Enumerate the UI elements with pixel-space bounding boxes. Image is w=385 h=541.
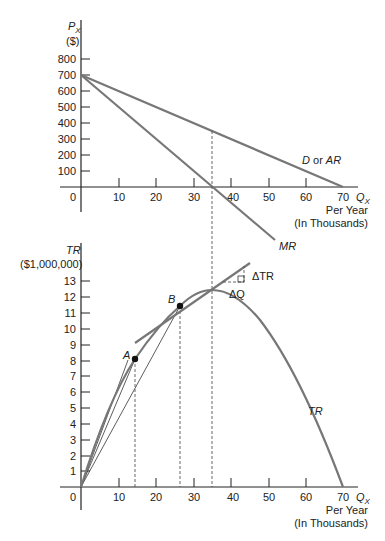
point-b-label: B xyxy=(168,293,175,305)
top-y-axis-label: PX xyxy=(68,20,81,35)
svg-text:2: 2 xyxy=(70,450,76,462)
top-x-in-thousands: (In Thousands) xyxy=(294,217,368,229)
top-x-ticks: 0 10 20 30 40 50 60 70 xyxy=(70,178,349,203)
ray-to-b xyxy=(81,306,180,487)
mr-label: MR xyxy=(279,240,296,252)
delta-tr-label: ΔTR xyxy=(252,270,274,282)
top-y-ticks: 800 700 600 500 400 300 200 100 xyxy=(58,53,90,177)
svg-text:60: 60 xyxy=(300,491,312,503)
svg-text:400: 400 xyxy=(58,117,76,129)
point-b xyxy=(177,303,183,309)
point-a xyxy=(132,356,138,362)
svg-text:20: 20 xyxy=(150,491,162,503)
svg-text:7: 7 xyxy=(70,370,76,382)
svg-text:200: 200 xyxy=(58,149,76,161)
delta-q-label: ΔQ xyxy=(229,288,245,300)
bottom-chart: TR ($1,000,000) 13 12 11 10 9 8 7 6 5 4 … xyxy=(20,243,371,529)
bottom-y-axis-label: TR xyxy=(66,244,81,256)
top-x-per-year: Per Year xyxy=(326,204,369,216)
bottom-y-ticks: 13 12 11 10 9 8 7 6 5 4 3 2 1 xyxy=(64,275,90,477)
mr-curve xyxy=(81,75,275,240)
svg-text:6: 6 xyxy=(70,386,76,398)
svg-text:40: 40 xyxy=(227,491,239,503)
svg-text:1: 1 xyxy=(70,465,76,477)
svg-text:50: 50 xyxy=(263,491,275,503)
svg-text:8: 8 xyxy=(70,355,76,367)
point-a-label: A xyxy=(122,349,130,361)
svg-text:3: 3 xyxy=(70,434,76,446)
svg-text:20: 20 xyxy=(150,191,162,203)
svg-text:70: 70 xyxy=(337,191,349,203)
bottom-x-in-thousands: (In Thousands) xyxy=(294,517,368,529)
svg-text:10: 10 xyxy=(113,191,125,203)
svg-text:10: 10 xyxy=(64,323,76,335)
tangent-at-b xyxy=(135,263,250,343)
svg-text:30: 30 xyxy=(188,191,200,203)
svg-text:9: 9 xyxy=(70,339,76,351)
tr-curve-label: TR xyxy=(308,405,323,417)
svg-text:600: 600 xyxy=(58,85,76,97)
svg-text:500: 500 xyxy=(58,101,76,113)
svg-text:70: 70 xyxy=(337,491,349,503)
svg-text:5: 5 xyxy=(70,402,76,414)
bottom-x-ticks: 0 10 20 30 40 50 60 70 xyxy=(70,478,349,503)
svg-text:4: 4 xyxy=(70,418,76,430)
top-chart: PX ($) 800 700 600 500 400 300 200 100 0… xyxy=(58,20,371,252)
svg-text:800: 800 xyxy=(58,53,76,65)
demand-label: D or AR xyxy=(302,154,341,166)
svg-text:0: 0 xyxy=(70,191,76,203)
svg-text:300: 300 xyxy=(58,133,76,145)
svg-text:10: 10 xyxy=(113,491,125,503)
svg-text:700: 700 xyxy=(58,69,76,81)
svg-text:13: 13 xyxy=(64,275,76,287)
svg-text:50: 50 xyxy=(263,191,275,203)
svg-text:100: 100 xyxy=(58,165,76,177)
bottom-y-axis-unit: ($1,000,000) xyxy=(20,258,82,270)
svg-text:11: 11 xyxy=(65,307,76,319)
svg-text:60: 60 xyxy=(300,191,312,203)
svg-text:12: 12 xyxy=(64,291,76,303)
top-y-axis-unit: ($) xyxy=(66,35,79,47)
right-angle-marker xyxy=(238,276,244,282)
chart-canvas: PX ($) 800 700 600 500 400 300 200 100 0… xyxy=(0,0,385,541)
ray-to-a xyxy=(81,359,135,487)
svg-text:0: 0 xyxy=(70,491,76,503)
svg-text:30: 30 xyxy=(188,491,200,503)
bottom-x-per-year: Per Year xyxy=(326,504,369,516)
